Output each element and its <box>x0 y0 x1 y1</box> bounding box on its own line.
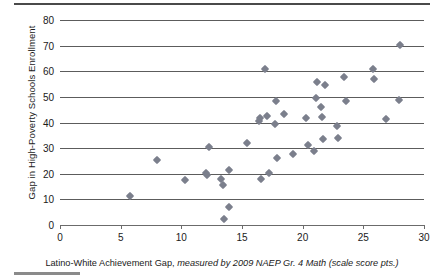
x-axis-tick-mark <box>60 225 61 229</box>
y-axis-tick-label: 30 <box>43 143 54 154</box>
y-axis-tick-label: 20 <box>43 168 54 179</box>
data-point <box>340 73 348 81</box>
chart-figure: Gap in High-Poverty Schools Enrollment 0… <box>0 0 444 280</box>
gridline <box>60 20 424 21</box>
data-point <box>243 139 251 147</box>
data-point <box>319 134 327 142</box>
y-axis-label: Gap in High-Poverty Schools Enrollment <box>26 8 37 218</box>
data-point <box>271 119 279 127</box>
x-axis-label-prefix: Latino-White Achievement Gap, <box>45 258 174 268</box>
x-axis-tick-label: 25 <box>358 232 369 243</box>
data-point <box>370 74 378 82</box>
data-point <box>181 176 189 184</box>
plot-area: 01020304050607080051015202530 <box>60 20 424 232</box>
x-axis-tick-label: 15 <box>236 232 247 243</box>
data-point <box>395 40 403 48</box>
gridline <box>60 148 424 149</box>
top-divider-rule <box>14 3 430 5</box>
data-point <box>312 94 320 102</box>
x-axis-label: Latino-White Achievement Gap, measured b… <box>0 258 444 268</box>
gridline <box>60 123 424 124</box>
gridline <box>60 97 424 98</box>
data-point <box>264 169 272 177</box>
y-axis-tick-label: 40 <box>43 117 54 128</box>
x-axis-tick-mark <box>363 225 364 229</box>
x-axis-tick-label: 20 <box>297 232 308 243</box>
data-point <box>153 156 161 164</box>
data-point <box>224 165 232 173</box>
y-axis-tick-label: 80 <box>43 15 54 26</box>
y-axis-tick-label: 70 <box>43 40 54 51</box>
x-axis-tick-mark <box>181 225 182 229</box>
x-axis-tick-mark <box>303 225 304 229</box>
x-axis-tick-label: 10 <box>176 232 187 243</box>
data-point <box>280 110 288 118</box>
data-point <box>261 65 269 73</box>
data-point <box>332 122 340 130</box>
y-axis-tick-label: 10 <box>43 194 54 205</box>
data-point <box>273 153 281 161</box>
data-point <box>317 103 325 111</box>
y-axis-tick-label: 0 <box>48 220 54 231</box>
gridline <box>60 199 424 200</box>
gridline <box>60 71 424 72</box>
x-axis-tick-mark <box>424 225 425 229</box>
y-axis-tick-label: 50 <box>43 91 54 102</box>
x-axis-tick-label: 5 <box>118 232 124 243</box>
y-axis-tick-label: 60 <box>43 66 54 77</box>
data-point <box>263 112 271 120</box>
data-point <box>302 114 310 122</box>
x-axis-tick-mark <box>242 225 243 229</box>
data-point <box>205 142 213 150</box>
bottom-divider-rule <box>14 272 80 275</box>
gridline <box>60 46 424 47</box>
x-axis-tick-mark <box>121 225 122 229</box>
data-point <box>320 81 328 89</box>
data-point <box>224 202 232 210</box>
data-point <box>220 215 228 223</box>
data-point <box>289 150 297 158</box>
x-axis-label-italic: measured by 2009 NAEP Gr. 4 Math (scale … <box>177 258 398 268</box>
data-point <box>257 175 265 183</box>
x-axis-tick-label: 0 <box>57 232 63 243</box>
data-point <box>318 113 326 121</box>
x-axis-tick-label: 30 <box>418 232 429 243</box>
gridline <box>60 174 424 175</box>
data-point <box>334 133 342 141</box>
